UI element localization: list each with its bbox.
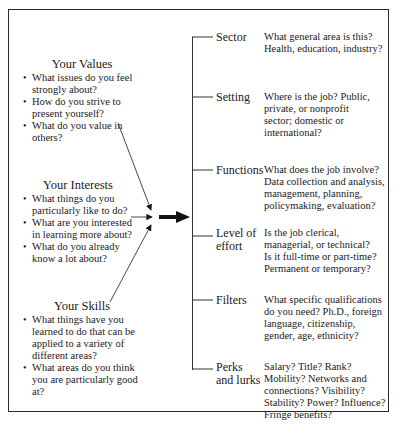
skills-group: Your Skills What things have you learned… <box>22 299 142 398</box>
main-arrow-head <box>176 211 190 223</box>
values-item: What issues do you feel strongly about? <box>22 72 142 96</box>
row-label-setting: Setting <box>216 91 250 104</box>
row-desc-functions: What does the job involve? Data collecti… <box>264 164 389 212</box>
row-label-level-of-effort: Level of effort <box>216 227 260 253</box>
skills-title: Your Skills <box>22 299 142 313</box>
values-item: How do you strive to present yourself? <box>22 96 142 120</box>
row-desc-setting: Where is the job? Public, private, or no… <box>264 91 378 139</box>
row-desc-perks-and-lurks: Salary? Title? Rank? Mobility? Networks … <box>264 361 386 421</box>
row-label-functions: Functions <box>216 164 263 177</box>
interests-item: What are you interested in learning more… <box>22 217 134 241</box>
skills-item: What areas do you think you are particul… <box>22 362 142 398</box>
values-group: Your Values What issues do you feel stro… <box>22 57 142 144</box>
skills-item: What things have you learned to do that … <box>22 314 142 362</box>
interests-item: What do you already know a lot about? <box>22 241 134 265</box>
row-label-perks-and-lurks: Perks and lurks <box>216 361 262 387</box>
row-label-sector: Sector <box>216 31 247 44</box>
interests-group: Your Interests What things do you partic… <box>22 178 134 265</box>
row-desc-level-of-effort: Is the job clerical, managerial, or tech… <box>264 227 380 275</box>
interests-item: What things do you particularly like to … <box>22 193 134 217</box>
values-title: Your Values <box>22 57 142 71</box>
row-desc-filters: What specific qualifications do you need… <box>264 294 386 342</box>
values-item: What do you value in others? <box>22 120 142 144</box>
row-desc-sector: What general area is this? Health, educa… <box>264 31 384 55</box>
row-label-filters: Filters <box>216 294 247 307</box>
interests-title: Your Interests <box>22 178 134 192</box>
